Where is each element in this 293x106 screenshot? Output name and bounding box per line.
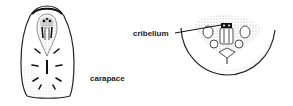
cribellum-label: cribellum <box>133 29 169 38</box>
diagram-canvas <box>0 0 293 106</box>
carapace-illustration <box>21 6 74 98</box>
cribellum-plate <box>221 23 232 28</box>
cribellum-illustration <box>175 15 275 75</box>
carapace-label: carapace <box>90 74 125 83</box>
